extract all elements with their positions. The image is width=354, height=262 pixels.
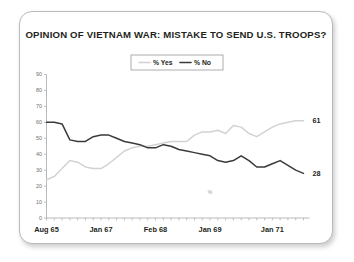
chart-plot: 0102030405060708090 Aug 65Jan 67Feb 68Ja…	[20, 12, 334, 245]
x-tick-label: Aug 65	[34, 225, 59, 234]
y-tick-label: 50	[36, 135, 42, 141]
y-tick-label: 20	[36, 183, 42, 189]
y-tick-label: 90	[36, 71, 42, 77]
y-tick-label: 80	[36, 87, 42, 93]
x-tick-label: Jan 69	[199, 225, 222, 234]
y-tick-label: 70	[36, 103, 42, 109]
x-tick-label: Jan 71	[261, 225, 284, 234]
x-tick-label: Jan 67	[90, 225, 113, 234]
series-lines	[47, 121, 304, 180]
series-line-no	[47, 122, 304, 173]
series-line-yes	[47, 121, 304, 180]
x-tick-label: Feb 68	[144, 225, 167, 234]
y-tick-label: 10	[36, 199, 42, 205]
y-axis: 0102030405060708090	[36, 71, 47, 221]
y-tick-label: 60	[36, 119, 42, 125]
y-tick-label: 0	[39, 215, 42, 221]
stray-percent-mark: %	[208, 189, 213, 195]
chart-legend: % Yes% No	[131, 55, 223, 70]
y-tick-label: 40	[36, 151, 42, 157]
end-label-yes: 61	[313, 116, 321, 125]
series-end-labels: 6128	[313, 116, 321, 178]
end-label-no: 28	[313, 169, 321, 178]
legend-label-1: % No	[194, 59, 211, 66]
chart-card: OPINION OF VIETNAM WAR: MISTAKE TO SEND …	[19, 11, 333, 244]
chart-annotations: %	[208, 189, 213, 195]
legend-label-0: % Yes	[153, 59, 173, 66]
x-axis: Aug 65Jan 67Feb 68Jan 69Jan 71	[34, 218, 309, 234]
y-tick-label: 30	[36, 167, 42, 173]
